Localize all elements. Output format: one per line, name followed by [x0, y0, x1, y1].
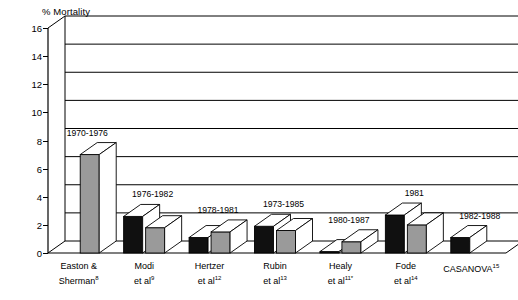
date-label-fode: 1981	[405, 188, 424, 198]
category-reference: 8	[95, 275, 98, 281]
category-label-line1: Healy	[328, 261, 354, 273]
y-tick-mark-2	[43, 225, 48, 226]
y-tick-mark-14	[43, 56, 48, 57]
category-label-line1: CASANOVA15	[443, 261, 499, 276]
category-label-rubin: Rubinet al13	[263, 261, 287, 287]
category-label-casanova: CASANOVA15	[443, 261, 499, 276]
y-tick-label-12: 12	[18, 79, 42, 90]
y-tick-mark-0	[43, 253, 48, 254]
category-label-line2: et al9	[134, 273, 154, 288]
category-reference: 11*	[345, 275, 354, 281]
category-reference: 14	[411, 275, 418, 281]
depth-top-left	[48, 16, 65, 28]
category-label-line2: et al11*	[328, 273, 354, 288]
y-tick-label-4: 4	[18, 191, 42, 202]
category-reference: 9	[151, 275, 154, 281]
date-label-modi: 1976-1982	[132, 189, 173, 199]
category-label-line2: et al12	[195, 273, 225, 288]
date-label-hertzer: 1978-1981	[198, 205, 239, 215]
y-tick-label-6: 6	[18, 163, 42, 174]
y-tick-label-8: 8	[18, 135, 42, 146]
category-label-line2: et al14	[394, 273, 418, 288]
y-tick-label-2: 2	[18, 219, 42, 230]
bar-easton-sherman-grey	[80, 143, 116, 253]
y-tick-label-14: 14	[18, 51, 42, 62]
category-label-line2: Sherman8	[59, 273, 99, 288]
category-label-modi: Modiet al9	[134, 261, 154, 287]
category-label-line1: Rubin	[263, 261, 287, 273]
category-label-line1: Fode	[394, 261, 418, 273]
bar-hertzer-grey	[211, 220, 247, 253]
category-label-line2: et al13	[263, 273, 287, 288]
y-tick-label-10: 10	[18, 107, 42, 118]
category-label-line1: Hertzer	[195, 261, 225, 273]
y-tick-mark-10	[43, 112, 48, 113]
y-axis-title: % Mortality	[42, 6, 90, 17]
category-label-line1: Easton &	[59, 261, 99, 273]
category-reference: 15	[493, 263, 500, 269]
y-tick-mark-6	[43, 169, 48, 170]
date-label-casanova: 1982-1988	[459, 211, 500, 221]
bar-casanova-black	[451, 226, 487, 253]
plot-area: 1614121086420 1970-19761976-19821978-198…	[48, 28, 506, 253]
bar-healy-grey	[342, 230, 378, 253]
category-label-fode: Fodeet al14	[394, 261, 418, 287]
date-label-easton-sherman: 1970-1976	[67, 128, 108, 138]
y-tick-mark-4	[43, 197, 48, 198]
y-tick-mark-16	[43, 28, 48, 29]
y-tick-mark-8	[43, 141, 48, 142]
y-tick-label-0: 0	[18, 248, 42, 259]
chart-frame	[48, 28, 518, 268]
category-reference: 12	[215, 275, 222, 281]
date-label-rubin: 1973-1985	[263, 199, 304, 209]
date-label-healy: 1980-1987	[328, 215, 369, 225]
category-label-healy: Healyet al11*	[328, 261, 354, 287]
depth-bottom-right	[506, 241, 518, 253]
depth-bottom-left	[48, 241, 65, 253]
category-reference: 13	[280, 275, 287, 281]
y-tick-mark-12	[43, 84, 48, 85]
y-tick-label-16: 16	[18, 23, 42, 34]
category-label-line1: Modi	[134, 261, 154, 273]
category-label-easton-sherman: Easton &Sherman8	[59, 261, 99, 287]
category-label-hertzer: Hertzeret al12	[195, 261, 225, 287]
